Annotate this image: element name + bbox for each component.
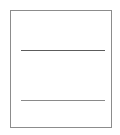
region-top [11, 11, 111, 50]
document-outline [10, 10, 112, 128]
region-bottom [11, 101, 111, 127]
region-middle [11, 51, 111, 100]
document-canvas [0, 0, 120, 135]
